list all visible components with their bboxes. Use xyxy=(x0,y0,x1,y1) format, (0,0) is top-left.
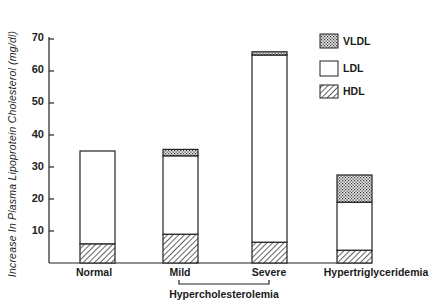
y-tick-20: 20 xyxy=(22,192,44,204)
category-label-hypertriglyceridemia: Hypertriglyceridemia xyxy=(324,266,428,278)
segment-vldl xyxy=(337,175,372,202)
bars xyxy=(80,52,372,263)
legend-label-hdl: HDL xyxy=(343,85,365,97)
segment-vldl xyxy=(163,149,198,155)
y-tick-30: 30 xyxy=(22,160,44,172)
hypercholesterolemia-bracket xyxy=(179,280,269,284)
legend-label-ldl: LDL xyxy=(343,62,363,74)
bar-hypertriglyceridemia xyxy=(337,175,372,263)
segment-ldl xyxy=(80,151,115,244)
segment-hdl xyxy=(80,244,115,263)
bar-severe xyxy=(252,52,287,263)
y-tick-40: 40 xyxy=(22,128,44,140)
stacked-bar-chart xyxy=(0,0,440,308)
group-label-hypercholesterolemia: Hypercholesterolemia xyxy=(169,288,279,300)
category-label-severe: Severe xyxy=(252,266,286,278)
legend-swatch-vldl xyxy=(320,34,338,48)
segment-hdl xyxy=(252,242,287,263)
bar-normal xyxy=(80,151,115,263)
segment-ldl xyxy=(252,55,287,242)
y-tick-50: 50 xyxy=(22,95,44,107)
segment-ldl xyxy=(337,202,372,250)
legend xyxy=(320,34,338,98)
bar-mild xyxy=(163,149,198,263)
segment-vldl xyxy=(252,52,287,55)
segment-hdl xyxy=(163,234,198,263)
legend-swatch-hdl xyxy=(320,85,338,98)
y-axis-label: Increase In Plasma Lipoprotein Cholester… xyxy=(6,31,18,277)
legend-label-vldl: VLDL xyxy=(343,35,370,47)
category-label-normal: Normal xyxy=(76,266,112,278)
y-tick-10: 10 xyxy=(22,224,44,236)
y-axis xyxy=(49,37,54,263)
y-tick-70: 70 xyxy=(22,31,44,43)
segment-hdl xyxy=(337,250,372,263)
y-tick-60: 60 xyxy=(22,63,44,75)
category-label-mild: Mild xyxy=(170,266,191,278)
legend-swatch-ldl xyxy=(320,61,338,76)
segment-ldl xyxy=(163,156,198,234)
